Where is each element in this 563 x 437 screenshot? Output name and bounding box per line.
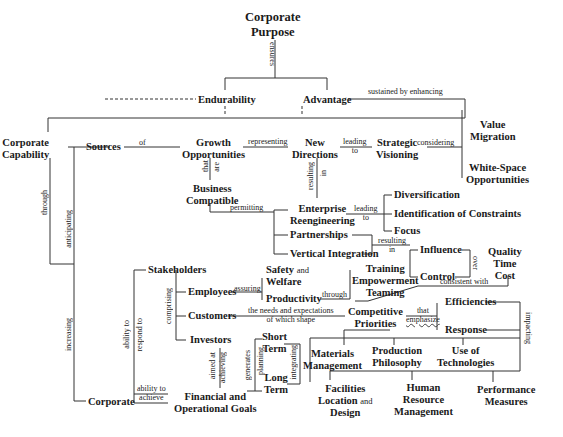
- node-text: Use of: [437, 345, 494, 357]
- link-leading-to-2: leading to: [354, 204, 378, 222]
- node-growth-opportunities: Growth Opportunities: [182, 137, 245, 161]
- node-partnerships: Partnerships: [290, 229, 348, 241]
- link-ability-to-respond-to: ability to: [122, 320, 131, 349]
- node-diversification: Diversification: [394, 189, 460, 201]
- node-stakeholders: Stakeholders: [148, 264, 206, 276]
- link-text: achieve: [137, 393, 166, 402]
- node-text: Enterprise: [290, 203, 355, 215]
- node-text: Migration: [470, 131, 516, 143]
- node-text: New: [292, 137, 338, 149]
- node-text: Philosophy: [372, 357, 422, 369]
- link-that-are-2: are: [212, 162, 221, 172]
- link-text: resulting: [378, 236, 406, 245]
- link-generates: generates: [243, 350, 252, 380]
- link-resulting-in-1: resulting: [306, 162, 315, 190]
- node-financial-operational-goals: Financial and Operational Goals: [174, 391, 257, 415]
- node-corporate-capability: Corporate Capability: [2, 137, 49, 161]
- node-text: Opportunities: [182, 149, 245, 161]
- node-text: Cost: [488, 270, 522, 282]
- node-response: Response: [445, 324, 487, 336]
- node-enterprise-reengineering: Enterprise Reengineering: [290, 203, 355, 227]
- node-value-migration: Value Migration: [470, 119, 516, 143]
- node-text: Training: [352, 263, 419, 275]
- node-short-term: Short Term: [262, 331, 287, 355]
- node-facilities-location-design: Facilities Location and Design: [318, 383, 373, 419]
- link-consistent-with: consistent with: [440, 277, 488, 286]
- node-text: Purpose: [245, 25, 301, 40]
- node-vertical-integration: Vertical Integration: [290, 248, 379, 260]
- node-text: Term: [264, 384, 288, 396]
- link-leading-to-1: leading to: [343, 137, 367, 155]
- node-text: Empowerment: [352, 275, 419, 287]
- node-text: Corporate: [2, 137, 49, 149]
- node-employees: Employees: [188, 286, 236, 298]
- link-text: emphasize: [406, 315, 440, 324]
- link-permitting: permitting: [230, 203, 263, 212]
- link-text: in: [378, 245, 406, 254]
- node-text: Strategic: [376, 137, 418, 149]
- node-text: Performance: [477, 384, 535, 396]
- link-text: that: [406, 306, 440, 315]
- link-text: to: [343, 146, 367, 155]
- node-text: Long: [264, 372, 288, 384]
- node-competitive-priorities: Competitive Priorities: [348, 306, 403, 330]
- link-ensures: ensures: [268, 42, 277, 66]
- link-representing: representing: [248, 137, 288, 146]
- node-text: Directions: [292, 149, 338, 161]
- node-text: Facilities: [318, 383, 373, 395]
- node-text: Safety: [266, 264, 294, 275]
- node-text: Quality: [488, 246, 522, 258]
- link-resulting-in-2: resulting in: [378, 236, 406, 254]
- node-text: Welfare: [266, 276, 309, 288]
- node-productivity: Productivity: [266, 293, 322, 305]
- node-training-empowerment-teaming: Training Empowerment Teaming: [352, 263, 419, 299]
- node-text: Reengineering: [290, 215, 355, 227]
- node-text: Management: [303, 360, 362, 372]
- node-text: Opportunities: [466, 174, 529, 186]
- node-use-of-technologies: Use of Technologies: [437, 345, 494, 369]
- node-text: Production: [372, 345, 422, 357]
- link-assuring: assuring: [234, 284, 261, 293]
- link-impacting: impacting: [524, 312, 533, 344]
- node-human-resource-management: Human Resource Management: [394, 382, 453, 418]
- link-aimed-at-achieving-2: achieving: [218, 352, 227, 383]
- node-text: Visioning: [376, 149, 418, 161]
- node-text: Business: [186, 183, 239, 195]
- link-increasing: increasing: [64, 318, 73, 351]
- node-text: Corporate: [245, 10, 301, 25]
- link-over: over: [471, 256, 480, 270]
- node-performance-measures: Performance Measures: [477, 384, 535, 408]
- node-customers: Customers: [188, 310, 236, 322]
- node-text: and: [297, 265, 309, 275]
- node-text: Technologies: [437, 357, 494, 369]
- node-text: Term: [262, 343, 287, 355]
- node-text: Competitive: [348, 306, 403, 318]
- node-text: Management: [394, 406, 453, 418]
- node-white-space-opportunities: White-Space Opportunities: [466, 162, 529, 186]
- link-through-2: through: [322, 290, 347, 299]
- node-production-philosophy: Production Philosophy: [372, 345, 422, 369]
- node-text: Time: [488, 258, 522, 270]
- node-corporate: Corporate: [88, 396, 135, 408]
- node-endurability: Endurability: [198, 94, 256, 106]
- node-text: Financial and: [174, 391, 257, 403]
- link-considering: considering: [417, 138, 454, 147]
- link-that-are: that: [201, 160, 210, 172]
- link-comprising: comprising: [164, 288, 173, 324]
- node-sources: Sources: [86, 141, 121, 153]
- link-planning: planning: [256, 347, 265, 375]
- node-text: Capability: [2, 149, 49, 161]
- link-text: to: [354, 213, 378, 222]
- node-long-term: Long Term: [264, 372, 288, 396]
- node-text: Teaming: [352, 287, 419, 299]
- node-investors: Investors: [190, 334, 231, 346]
- link-integrating: integrating: [289, 345, 298, 380]
- node-text: Resource: [394, 394, 453, 406]
- link-anticipating: anticipating: [64, 210, 73, 248]
- link-that-emphasize: that emphasize: [406, 306, 440, 324]
- node-text: Priorities: [348, 318, 403, 330]
- node-text: Value: [470, 119, 516, 131]
- node-text: Materials: [303, 348, 362, 360]
- node-text: Location: [318, 395, 358, 406]
- node-text: Measures: [477, 396, 535, 408]
